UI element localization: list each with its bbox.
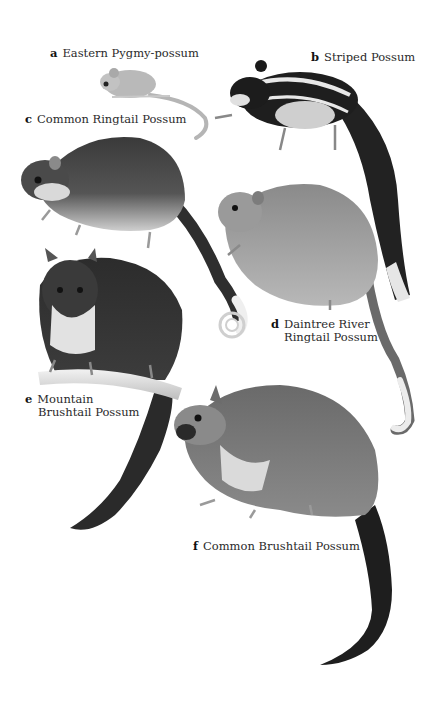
label-name: Common Ringtail Possum [37, 112, 186, 126]
label-letter: a [50, 46, 57, 60]
label-striped-possum: bStriped Possum [311, 51, 415, 64]
label-common-brushtail-possum: fCommon Brushtail Possum [193, 540, 360, 553]
label-name: Daintree River [284, 317, 370, 331]
possum-illustrations [0, 0, 448, 702]
label-letter: f [193, 539, 198, 553]
label-common-ringtail-possum: cCommon Ringtail Possum [25, 113, 186, 126]
label-name: Common Brushtail Possum [203, 539, 360, 553]
common-brushtail-possum-figure [174, 385, 392, 665]
label-name-line2: Brushtail Possum [25, 406, 139, 419]
label-letter: e [25, 392, 32, 406]
label-name-line2: Ringtail Possum [271, 331, 378, 344]
mountain-brushtail-possum-figure [38, 248, 182, 530]
label-name: Mountain [37, 392, 93, 406]
eastern-pygmy-possum-figure [100, 68, 206, 138]
label-eastern-pygmy-possum: aEastern Pygmy-possum [50, 47, 199, 60]
label-daintree-river-ringtail-possum: dDaintree River Ringtail Possum [271, 318, 378, 344]
label-name: Striped Possum [324, 50, 415, 64]
label-mountain-brushtail-possum: eMountain Brushtail Possum [25, 393, 139, 419]
illustration-plate: aEastern Pygmy-possum bStriped Possum cC… [0, 0, 448, 702]
label-letter: b [311, 50, 319, 64]
label-letter: d [271, 317, 279, 331]
label-letter: c [25, 112, 32, 126]
label-name: Eastern Pygmy-possum [62, 46, 198, 60]
